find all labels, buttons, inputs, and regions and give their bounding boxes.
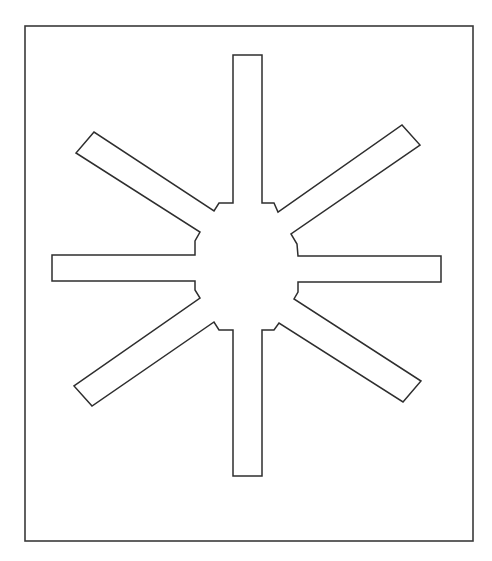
- star-shape-outline: [52, 55, 441, 476]
- diagram-canvas: [0, 0, 492, 561]
